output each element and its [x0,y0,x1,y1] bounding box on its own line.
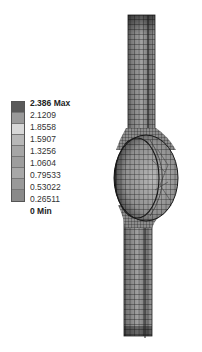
fea-mesh-model [0,0,202,352]
lower-strip [124,215,152,338]
central-bulb [114,135,178,221]
upper-strip [128,15,155,140]
